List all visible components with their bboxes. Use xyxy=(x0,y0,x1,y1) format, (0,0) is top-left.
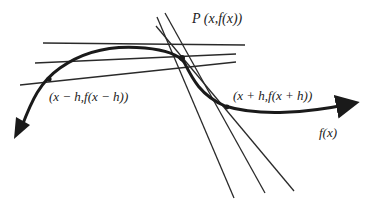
left-secant-lines xyxy=(20,43,245,85)
secant-line-right-2 xyxy=(165,13,265,193)
diagram-canvas xyxy=(0,0,370,214)
secant-line-left-1 xyxy=(43,43,245,45)
label-point-p: P (x,f(x)) xyxy=(192,12,242,26)
label-function: f(x) xyxy=(319,126,337,139)
secant-line-left-2 xyxy=(35,54,236,63)
label-point-right: (x + h,f(x + h)) xyxy=(233,89,312,102)
point-right-dot xyxy=(225,105,230,110)
curve-arrow-left-icon xyxy=(14,117,30,139)
secant-line-right-3 xyxy=(156,26,294,191)
point-left-dot xyxy=(46,76,51,81)
point-p-dot xyxy=(179,55,185,61)
label-point-left: (x − h,f(x − h)) xyxy=(49,90,128,103)
